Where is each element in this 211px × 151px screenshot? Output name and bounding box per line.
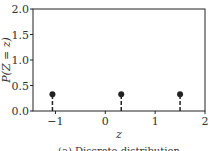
x-axis-label: z [115, 128, 122, 141]
stem-marker [118, 91, 124, 97]
x-tick-label: 2 [202, 115, 209, 128]
y-tick-label: 1.5 [12, 29, 30, 42]
x-tick-label: −1 [47, 115, 63, 128]
y-tick-label: 0.0 [12, 105, 30, 118]
stem-marker [49, 91, 55, 97]
x-tick-label: 0 [102, 115, 109, 128]
y-tick-label: 1.0 [12, 54, 30, 67]
y-axis-label: P(Z = z) [0, 37, 13, 84]
y-tick-label: 2.0 [12, 3, 30, 16]
figure-caption: (a) Discrete distribution [58, 145, 181, 151]
y-tick-label: 0.5 [12, 80, 30, 93]
stem-marker [177, 91, 183, 97]
stem-chart: −10120.00.51.01.52.0zP(Z = z)(a) Discret… [0, 0, 211, 151]
x-tick-label: 1 [152, 115, 159, 128]
